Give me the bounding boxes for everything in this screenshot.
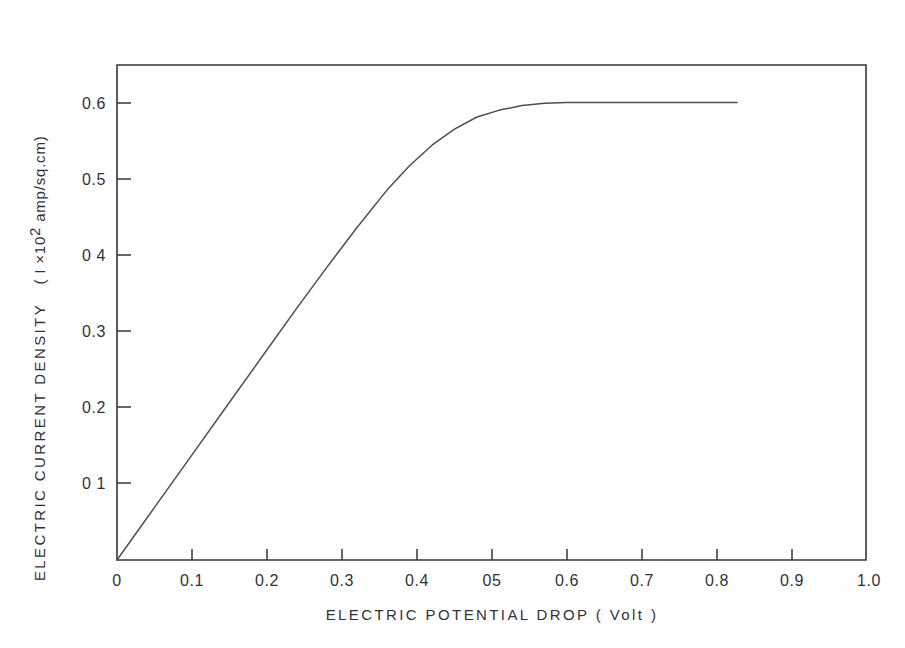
x-tick-label-8: 0.8 <box>705 572 729 589</box>
x-axis-title: ELECTRIC POTENTIAL DROP ( Volt ) <box>326 606 659 623</box>
y-axis-units-suffix: amp/sq.cm) <box>31 135 48 226</box>
y-axis-title-units: ( I ×102 amp/sq.cm) <box>26 135 48 284</box>
x-tick-label-1: 0.1 <box>180 572 204 589</box>
y-tick-label-2: 0.3 <box>82 323 106 340</box>
y-axis-ticks <box>117 103 131 483</box>
y-axis-title-group: ELECTRIC CURRENT DENSITY ( I ×102 amp/sq… <box>26 135 48 581</box>
x-tick-label-4: 0.4 <box>405 572 429 589</box>
current-density-plot: 0 0.1 0.2 0.3 0.4 05 0.6 0.7 0.8 0.9 1.0… <box>0 0 905 648</box>
y-axis-title: ELECTRIC CURRENT DENSITY <box>31 303 48 581</box>
y-tick-label-0: 0 1 <box>82 475 106 492</box>
y-tick-label-3: 0 4 <box>82 247 106 264</box>
y-tick-label-4: 0.5 <box>82 171 106 188</box>
y-tick-labels: 0 1 0.2 0.3 0 4 0.5 0.6 <box>82 95 106 492</box>
plot-frame <box>117 65 866 560</box>
y-tick-label-1: 0.2 <box>82 399 106 416</box>
x-tick-label-2: 0.2 <box>255 572 279 589</box>
y-axis-units-exponent: 2 <box>26 227 43 236</box>
x-tick-label-3: 0.3 <box>330 572 354 589</box>
x-tick-label-9: 0.9 <box>780 572 804 589</box>
figure-container: 0 0.1 0.2 0.3 0.4 05 0.6 0.7 0.8 0.9 1.0… <box>0 0 905 648</box>
y-tick-label-5: 0.6 <box>82 95 106 112</box>
y-axis-units-prefix: ( I ×10 <box>31 236 48 285</box>
x-tick-labels: 0 0.1 0.2 0.3 0.4 05 0.6 0.7 0.8 0.9 1.0 <box>112 572 881 589</box>
x-tick-label-6: 0.6 <box>555 572 579 589</box>
x-tick-label-0: 0 <box>112 572 122 589</box>
x-tick-label-10: 1.0 <box>857 572 881 589</box>
x-tick-label-5: 05 <box>483 572 502 589</box>
x-axis-ticks <box>192 549 792 560</box>
data-curve-current-density <box>117 103 737 560</box>
x-tick-label-7: 0.7 <box>630 572 654 589</box>
